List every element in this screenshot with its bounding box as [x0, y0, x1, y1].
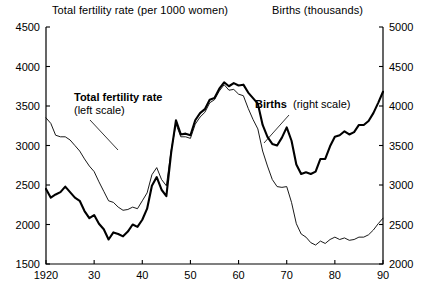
right-tick-label: 4000 — [389, 100, 413, 112]
x-axis-tick-labels: 192030405060708090 — [34, 269, 389, 281]
fertility-annotation-label: Total fertility rate — [74, 91, 162, 103]
births-annotation-label: Births — [255, 98, 287, 110]
right-tick-label: 2000 — [389, 258, 413, 270]
fertility-leader-line — [90, 120, 118, 150]
fertility-annotation-sublabel: (left scale) — [74, 104, 125, 116]
right-tick-label: 3500 — [389, 140, 413, 152]
chart-svg: 1500200025003000350040004500 20002500300… — [0, 0, 428, 295]
x-tick-label: 30 — [88, 269, 100, 281]
left-tick-label: 4000 — [16, 61, 40, 73]
x-tick-label: 50 — [184, 269, 196, 281]
x-tick-label: 90 — [377, 269, 389, 281]
left-tick-label: 4500 — [16, 21, 40, 33]
fertility-annotation: Total fertility rate (left scale) — [74, 91, 162, 150]
right-tick-label: 3000 — [389, 179, 413, 191]
axes — [46, 27, 383, 264]
right-axis-tick-labels: 2000250030003500400045005000 — [389, 21, 413, 270]
left-tick-label: 3000 — [16, 140, 40, 152]
x-tick-label: 70 — [281, 269, 293, 281]
x-tick-label: 1920 — [34, 269, 58, 281]
left-axis-tick-labels: 1500200025003000350040004500 — [16, 21, 40, 270]
right-tick-label: 5000 — [389, 21, 413, 33]
right-tick-label: 4500 — [389, 61, 413, 73]
fertility-births-chart: Total fertility rate (per 1000 women) Bi… — [0, 0, 428, 295]
left-tick-label: 2000 — [16, 219, 40, 231]
left-tick-label: 2500 — [16, 179, 40, 191]
left-tick-label: 3500 — [16, 100, 40, 112]
x-tick-label: 80 — [329, 269, 341, 281]
x-tick-label: 60 — [232, 269, 244, 281]
right-tick-label: 2500 — [389, 219, 413, 231]
births-annotation-sublabel: (right scale) — [293, 98, 350, 110]
x-tick-label: 40 — [136, 269, 148, 281]
